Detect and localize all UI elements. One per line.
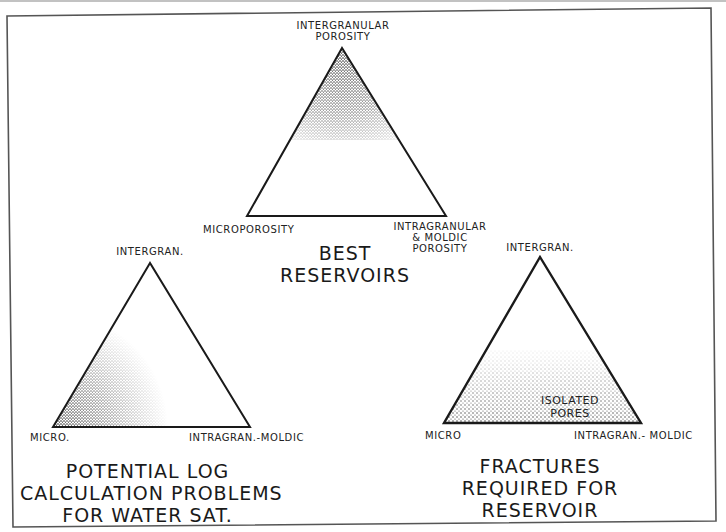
caption-log-problems: POTENTIAL LOG CALCULATION PROBLEMS FOR W… <box>20 460 275 526</box>
label-line: PORES <box>530 407 610 420</box>
label-line: ISOLATED <box>530 394 610 407</box>
caption-line: BEST <box>270 242 420 264</box>
caption-line: REQUIRED FOR <box>455 477 625 499</box>
caption-line: FOR WATER SAT. <box>20 504 275 526</box>
caption-line: RESERVOIR <box>455 499 625 521</box>
vertex-label-microporosity: MICROPOROSITY <box>203 224 294 235</box>
label-line: INTERGRANULAR <box>283 20 403 31</box>
vertex-label-intergranular: INTERGRANULAR POROSITY <box>283 20 403 42</box>
vertex-label-intergran: INTERGRAN. <box>100 246 200 257</box>
vertex-label-intergran: INTERGRAN. <box>490 242 590 253</box>
caption-line: CALCULATION PROBLEMS <box>20 482 275 504</box>
caption-line: POTENTIAL LOG <box>20 460 275 482</box>
vertex-label-intragran-moldic: INTRAGRAN.-MOLDIC <box>189 432 304 443</box>
triangle-best-reservoirs <box>240 40 450 216</box>
label-line: INTRAGRANULAR <box>390 221 490 232</box>
caption-line: RESERVOIRS <box>270 264 420 286</box>
vertex-label-micro: MICRO. <box>30 432 70 443</box>
inner-label-isolated-pores: ISOLATED PORES <box>530 394 610 420</box>
caption-fractures-required: FRACTURES REQUIRED FOR RESERVOIR <box>455 455 625 521</box>
caption-best-reservoirs: BEST RESERVOIRS <box>270 242 420 286</box>
label-line: POROSITY <box>283 31 403 42</box>
caption-line: FRACTURES <box>455 455 625 477</box>
vertex-label-micro: MICRO <box>425 430 461 441</box>
vertex-label-intragran-moldic: INTRAGRAN.- MOLDIC <box>574 430 693 441</box>
triangle-log-problems <box>50 263 250 430</box>
